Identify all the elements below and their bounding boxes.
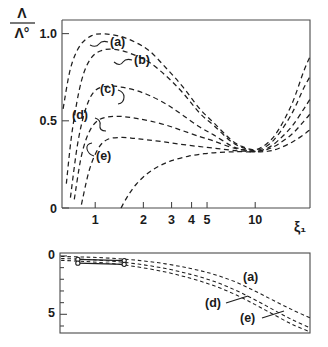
top-panel-annotations: (a) (b) (c) (d) (e) [72, 35, 150, 163]
xtick-label-3: 3 [168, 213, 175, 227]
bottom-curve-label-d: (d) [205, 296, 221, 310]
bottom-curve-label-a: (a) [243, 270, 258, 284]
lower-marker-segment-end-marker [122, 262, 126, 266]
curve-label-c: (c) [100, 82, 115, 96]
top-panel-yticks [62, 34, 69, 208]
curve-rising-lowest [121, 152, 255, 208]
ylabel-numerator: Λ [17, 5, 27, 21]
two-panel-plot-svg: Λ Λ° 1.0 0.5 0 1234510 ξ₁ [0, 0, 328, 347]
lower-marker-segment [78, 263, 124, 264]
curve-label-d: (d) [72, 108, 88, 122]
bottom-panel-yticks [60, 256, 67, 326]
upper-marker-segment [78, 259, 124, 260]
bottom-leader-e [262, 311, 284, 318]
xtick-label-10: 10 [248, 213, 262, 227]
bottom-panel-annotations: (a) (d) (e) [205, 270, 284, 325]
leader-d [95, 118, 106, 131]
bottom-curve-e [61, 260, 310, 331]
leader-b [114, 59, 132, 64]
leader-c [118, 90, 124, 104]
leader-e [87, 143, 94, 156]
top-panel-frame-top-right [62, 20, 310, 208]
ytick-label-0p5: 0.5 [40, 114, 57, 128]
leader-a [90, 41, 108, 46]
bottom-curve-a [61, 257, 310, 318]
top-panel-curves [63, 34, 310, 208]
xtick-label-2: 2 [140, 213, 147, 227]
top-panel-xticks [95, 202, 255, 208]
bottom-curve-label-e: (e) [240, 311, 255, 325]
xtick-label-5: 5 [204, 213, 211, 227]
bottom-panel-curves [61, 257, 310, 332]
curve-b [66, 49, 310, 184]
curve-label-e: (e) [96, 149, 111, 163]
bottom-ytick-label-0: 0 [48, 248, 55, 262]
lower-marker-segment-start-marker [76, 261, 80, 265]
bottom-panel-frame [60, 253, 310, 333]
figure-container: Λ Λ° 1.0 0.5 0 1234510 ξ₁ [0, 0, 328, 347]
ytick-label-1p0: 1.0 [40, 27, 57, 41]
ylabel-denominator: Λ° [15, 25, 30, 41]
curve-e [81, 130, 310, 205]
top-panel-xlabel: ξ₁ [294, 219, 306, 235]
xtick-label-4: 4 [188, 213, 195, 227]
bottom-curve-d [61, 258, 310, 327]
top-panel: Λ Λ° 1.0 0.5 0 1234510 ξ₁ [10, 5, 310, 235]
curve-label-b: (b) [134, 53, 150, 67]
ytick-label-0: 0 [50, 202, 57, 216]
top-panel-ylabel: Λ Λ° [10, 5, 35, 41]
bottom-ytick-label-5: 5 [48, 306, 55, 320]
bottom-panel: 0 5 (a) (d) (e) [48, 248, 310, 333]
top-panel-xtick-labels: 1234510 [92, 213, 262, 227]
curve-label-a: (a) [110, 35, 125, 49]
xtick-label-1: 1 [92, 213, 99, 227]
